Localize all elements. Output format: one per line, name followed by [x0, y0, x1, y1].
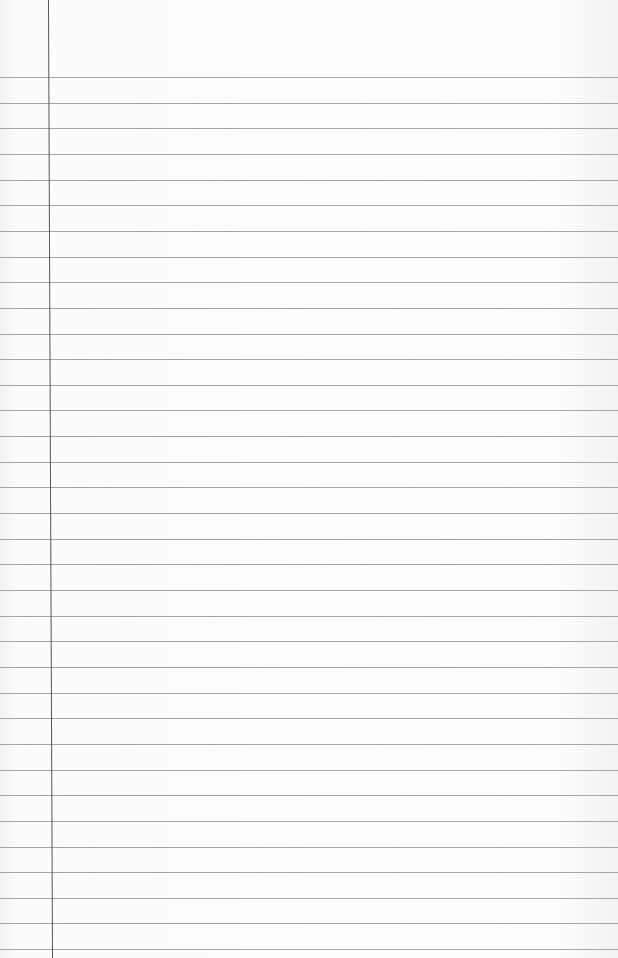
ruled-line — [0, 667, 618, 668]
ruled-line — [0, 949, 618, 950]
ruled-line — [0, 847, 618, 848]
ruled-line — [0, 923, 618, 924]
margin-line — [48, 0, 53, 958]
ruled-line — [0, 103, 618, 104]
ruled-line — [0, 334, 618, 335]
ruled-line — [0, 308, 618, 309]
ruled-line — [0, 205, 618, 206]
ruled-line — [0, 821, 618, 822]
ruled-line — [0, 718, 618, 719]
ruled-line — [0, 744, 618, 745]
ruled-line — [0, 410, 618, 411]
ruled-line — [0, 898, 618, 899]
ruled-line — [0, 180, 618, 181]
ruled-line — [0, 693, 618, 694]
ruled-line — [0, 359, 618, 360]
ruled-line — [0, 462, 618, 463]
ruled-line — [0, 257, 618, 258]
ruled-line — [0, 872, 618, 873]
ruled-line — [0, 487, 618, 488]
notebook-page — [0, 0, 618, 958]
ruled-line — [0, 770, 618, 771]
ruled-line — [0, 436, 618, 437]
ruled-line — [0, 564, 618, 565]
ruled-line — [0, 795, 618, 796]
ruled-line — [0, 513, 618, 514]
ruled-line — [0, 385, 618, 386]
ruled-line — [0, 154, 618, 155]
ruled-line — [0, 641, 618, 642]
ruled-line — [0, 539, 618, 540]
ruled-line — [0, 128, 618, 129]
ruled-line — [0, 616, 618, 617]
ruled-line — [0, 77, 618, 78]
ruled-line — [0, 590, 618, 591]
ruled-line — [0, 231, 618, 232]
ruled-line — [0, 282, 618, 283]
